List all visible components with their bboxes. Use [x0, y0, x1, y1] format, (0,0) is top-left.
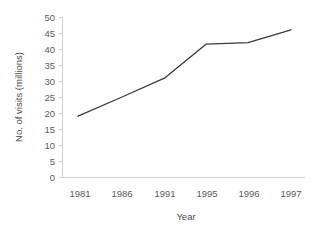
chart-canvas: 0 5 10 15 20 25 30 35 40 45 50 1981 1986… [0, 0, 329, 231]
y-tick-label: 50 [44, 12, 55, 23]
y-tick-label: 35 [44, 60, 55, 71]
y-tick-label: 20 [44, 108, 55, 119]
x-tick-label: 1997 [280, 188, 301, 199]
y-tick-label: 30 [44, 76, 55, 87]
y-tick-label: 0 [50, 172, 55, 183]
y-tick-label: 10 [44, 140, 55, 151]
x-tick-label: 1991 [154, 188, 175, 199]
y-tick-label: 5 [50, 156, 55, 167]
y-tick-label: 25 [44, 92, 55, 103]
y-tick-label: 45 [44, 28, 55, 39]
x-tick-label: 1996 [238, 188, 259, 199]
y-axis-title: No. of visits (millions) [13, 52, 24, 142]
y-tick-label: 40 [44, 44, 55, 55]
x-axis-title: Year [176, 211, 195, 222]
y-tick-label: 15 [44, 124, 55, 135]
line-chart: 0 5 10 15 20 25 30 35 40 45 50 1981 1986… [0, 0, 329, 231]
x-tick-label: 1981 [69, 188, 90, 199]
x-tick-label: 1986 [111, 188, 132, 199]
x-tick-label: 1995 [196, 188, 217, 199]
